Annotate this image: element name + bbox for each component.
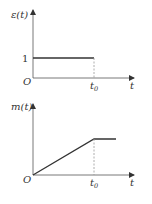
step-function-plot: ε(t) 1 O t0 t — [11, 9, 135, 93]
bottom-t0-label: t0 — [90, 177, 98, 190]
top-xlabel: t — [130, 80, 135, 91]
top-t0-label: t0 — [90, 80, 98, 93]
ramp-function-plot: m(t) O t0 t — [11, 101, 135, 190]
bottom-ramp-curve — [33, 139, 116, 175]
top-origin-label: O — [23, 76, 31, 87]
figure: ε(t) 1 O t0 t m(t) O t0 t — [0, 0, 152, 204]
top-tick-one: 1 — [22, 53, 28, 64]
bottom-xlabel: t — [130, 177, 135, 188]
top-ylabel: ε(t) — [11, 9, 28, 20]
bottom-origin-label: O — [23, 174, 31, 185]
bottom-ylabel: m(t) — [11, 101, 32, 112]
